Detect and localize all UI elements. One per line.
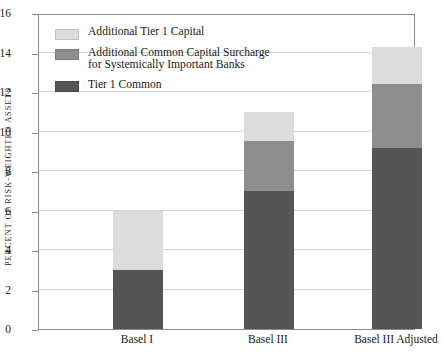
- y-tick-label: 6: [0, 206, 11, 218]
- y-tick-label: 12: [0, 87, 11, 99]
- y-tick-label: 16: [0, 8, 11, 20]
- bar-segment[interactable]: [372, 84, 422, 148]
- y-tick-label: 4: [0, 245, 11, 257]
- legend-swatch: [55, 81, 79, 92]
- bar-segment[interactable]: [113, 270, 163, 329]
- legend-label: Additional Common Capital Surcharge for …: [88, 47, 270, 72]
- y-tick-mark: [32, 330, 38, 331]
- gridline: [39, 289, 414, 290]
- gridline: [39, 210, 414, 211]
- legend-item[interactable]: Tier 1 Common: [55, 79, 270, 93]
- bar-segment[interactable]: [372, 148, 422, 329]
- chart-legend: Additional Tier 1 CapitalAdditional Comm…: [55, 26, 270, 99]
- legend-item[interactable]: Additional Tier 1 Capital: [55, 26, 270, 40]
- y-tick-label: 8: [0, 166, 11, 178]
- y-tick-label: 10: [0, 127, 11, 139]
- x-tick-label: Basel III Adjusted: [316, 334, 443, 346]
- bar-group[interactable]: [372, 13, 422, 329]
- y-tick-label: 2: [0, 285, 11, 297]
- gridline: [39, 170, 414, 171]
- y-tick-label: 0: [0, 324, 11, 336]
- legend-item[interactable]: Additional Common Capital Surcharge for …: [55, 47, 270, 72]
- bar-segment[interactable]: [113, 211, 163, 270]
- legend-swatch: [55, 29, 79, 40]
- bar-segment[interactable]: [244, 112, 294, 142]
- legend-label: Tier 1 Common: [88, 79, 162, 92]
- bar-segment[interactable]: [244, 191, 294, 329]
- y-tick-label: 14: [0, 48, 11, 60]
- gridline: [39, 249, 414, 250]
- legend-label: Additional Tier 1 Capital: [88, 26, 204, 39]
- legend-swatch: [55, 49, 79, 60]
- bar-segment[interactable]: [372, 47, 422, 85]
- bar-segment[interactable]: [244, 141, 294, 190]
- gridline: [39, 131, 414, 132]
